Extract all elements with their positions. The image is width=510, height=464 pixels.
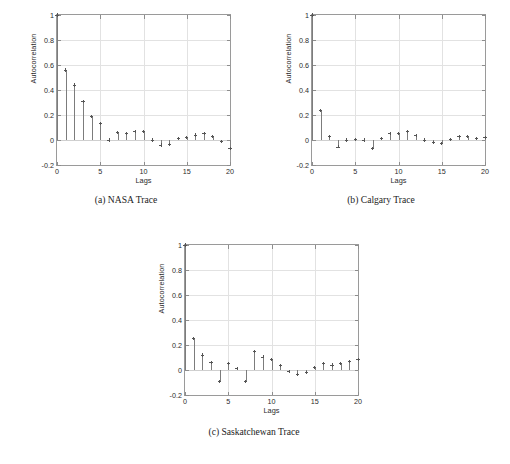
x-tick-mark <box>358 245 359 249</box>
data-point-marker <box>211 135 214 138</box>
x-axis-label-nasa: Lags <box>56 176 231 185</box>
data-point-marker <box>209 361 212 364</box>
data-point-marker <box>348 360 351 363</box>
x-tick-mark <box>144 15 145 19</box>
y-tick-mark <box>355 320 359 321</box>
data-point-marker <box>227 362 230 365</box>
y-tick-label: 0.6 <box>172 291 182 300</box>
y-tick-label: 0.6 <box>44 61 54 70</box>
data-point-marker <box>322 362 325 365</box>
y-tick-label: 0.4 <box>172 316 182 325</box>
stem-line <box>92 116 93 140</box>
gridline-vertical <box>272 245 273 395</box>
x-tick-label: 10 <box>268 397 276 406</box>
data-point-marker <box>183 243 186 246</box>
data-point-marker <box>305 371 308 374</box>
y-tick-mark <box>355 370 359 371</box>
data-point-marker <box>133 130 136 133</box>
y-tick-mark <box>482 115 486 116</box>
data-point-marker <box>328 135 331 138</box>
data-point-marker <box>354 138 357 141</box>
y-tick-label: 0.6 <box>299 61 309 70</box>
y-tick-label: 0.4 <box>44 86 54 95</box>
x-tick-label: 5 <box>353 167 357 176</box>
y-tick-mark <box>227 40 231 41</box>
x-tick-mark <box>358 392 359 396</box>
data-point-marker <box>81 100 84 103</box>
x-tick-mark <box>312 162 313 166</box>
x-tick-mark <box>57 162 58 166</box>
y-tick-mark <box>482 40 486 41</box>
x-tick-label: 5 <box>98 167 102 176</box>
y-tick-mark <box>355 295 359 296</box>
x-tick-mark <box>230 15 231 19</box>
y-tick-mark <box>57 165 61 166</box>
data-point-marker <box>244 380 247 383</box>
x-tick-mark <box>355 15 356 19</box>
data-point-marker <box>201 353 204 356</box>
x-tick-mark <box>485 15 486 19</box>
x-tick-mark <box>185 392 186 396</box>
data-point-marker <box>270 358 273 361</box>
y-tick-label: 0.8 <box>172 266 182 275</box>
x-tick-mark <box>272 392 273 396</box>
y-tick-label: -0.2 <box>42 161 54 170</box>
x-tick-label: 0 <box>183 397 187 406</box>
x-tick-mark <box>230 162 231 166</box>
x-tick-mark <box>399 15 400 19</box>
data-point-marker <box>228 147 231 150</box>
stem-line <box>100 124 101 140</box>
data-point-marker <box>279 364 282 367</box>
x-tick-label: 15 <box>438 167 446 176</box>
data-point-marker <box>168 143 171 146</box>
data-point-marker <box>339 362 342 365</box>
y-tick-label: 0.2 <box>172 341 182 350</box>
y-tick-label: 0.8 <box>299 36 309 45</box>
gridline-vertical <box>187 15 188 165</box>
x-tick-mark <box>187 162 188 166</box>
gridline-vertical <box>228 245 229 395</box>
y-axis-label-nasa: Autocorrelation <box>29 0 38 119</box>
data-point-marker <box>99 122 102 125</box>
stem-line <box>74 85 75 140</box>
gridline-vertical <box>355 15 356 165</box>
x-tick-label: 0 <box>55 167 59 176</box>
data-point-marker <box>159 143 162 146</box>
gridline-vertical <box>315 245 316 395</box>
x-tick-mark <box>355 162 356 166</box>
data-point-marker <box>73 83 76 86</box>
y-tick-label: 0.4 <box>299 86 309 95</box>
x-tick-label: 15 <box>183 167 191 176</box>
y-axis-label-calgary: Autocorrelation <box>284 0 293 119</box>
x-tick-mark <box>315 245 316 249</box>
data-point-marker <box>192 337 195 340</box>
data-point-marker <box>319 109 322 112</box>
data-point-marker <box>356 358 359 361</box>
x-tick-label: 0 <box>310 167 314 176</box>
data-point-marker <box>313 366 316 369</box>
x-tick-label: 20 <box>354 397 362 406</box>
y-axis-label-saskatchewan: Autocorrelation <box>157 229 166 349</box>
data-point-marker <box>362 138 365 141</box>
data-point-marker <box>483 136 486 139</box>
data-point-marker <box>397 132 400 135</box>
x-tick-mark <box>144 162 145 166</box>
gridline-vertical <box>399 15 400 165</box>
x-tick-label: 15 <box>311 397 319 406</box>
data-point-marker <box>388 132 391 135</box>
x-tick-mark <box>272 245 273 249</box>
y-tick-mark <box>482 165 486 166</box>
data-point-marker <box>253 350 256 353</box>
stem-line <box>83 101 84 140</box>
y-tick-label: 0.8 <box>44 36 54 45</box>
subplot-nasa-trace: Autocorrelation -0.200.20.40.60.81051015… <box>8 4 244 190</box>
y-tick-mark <box>355 270 359 271</box>
y-tick-label: 0 <box>178 366 182 375</box>
data-point-marker <box>432 141 435 144</box>
data-point-marker <box>64 68 67 71</box>
data-point-marker <box>218 380 221 383</box>
data-point-marker <box>202 132 205 135</box>
gridline-vertical <box>144 15 145 165</box>
y-tick-mark <box>312 165 316 166</box>
y-tick-mark <box>227 65 231 66</box>
